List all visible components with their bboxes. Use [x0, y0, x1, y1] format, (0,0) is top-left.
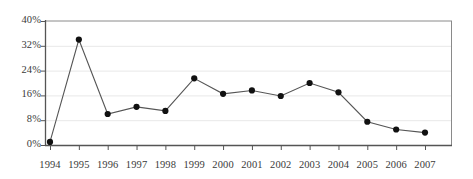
chart-figure: 0%8%16%24%32%40% 19941995199619971998199…	[0, 0, 473, 179]
x-axis-tick-label: 2007	[405, 160, 445, 171]
x-axis-labels: 1994199519961997199819992000200120022003…	[0, 0, 473, 179]
